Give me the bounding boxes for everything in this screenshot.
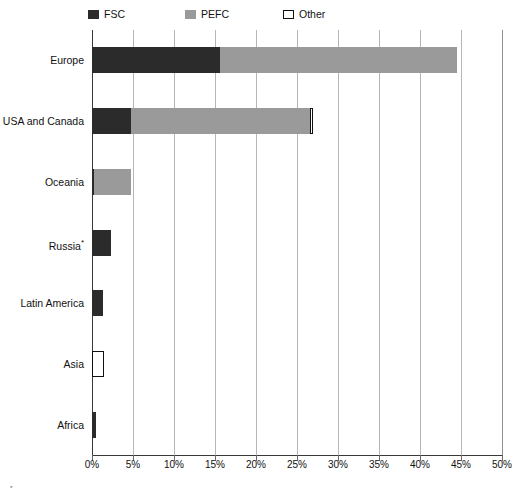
square-swatch-icon [185, 10, 196, 19]
legend-item-other[interactable]: Other [283, 6, 325, 22]
bar-segment-pefc[interactable] [94, 169, 131, 195]
bar-row [92, 230, 502, 256]
legend-label-pefc: PEFC [201, 9, 229, 20]
bar-segment-other[interactable] [310, 108, 313, 134]
bar-stack [92, 169, 131, 195]
bar-row [92, 169, 502, 195]
category-label-asia: Asia [64, 358, 84, 370]
bar-segment-fsc[interactable] [92, 290, 103, 316]
category-label-europe: Europe [50, 54, 84, 66]
legend-item-pefc[interactable]: PEFC [185, 6, 229, 22]
x-tick-label-20%: 20% [246, 459, 266, 471]
legend-item-fsc[interactable]: FSC [88, 6, 125, 22]
x-tick-label-25%: 25% [287, 459, 307, 471]
category-axis-labels: EuropeUSA and CanadaOceaniaRussia*Latin … [0, 30, 88, 455]
x-tick-label-35%: 35% [369, 459, 389, 471]
category-label-latin-america: Latin America [20, 297, 84, 309]
bar-stack [92, 290, 103, 316]
bar-segment-fsc[interactable] [92, 412, 96, 438]
bar-row [92, 412, 502, 438]
bar-segment-other[interactable] [92, 351, 104, 377]
x-tick-label-50%: 50% [492, 459, 512, 471]
certified-forest-area-chart: FSCPEFCOther EuropeUSA and CanadaOceania… [0, 0, 523, 491]
footnote-marker: * [10, 484, 36, 491]
chart-footnote: * [10, 484, 523, 491]
bar-stack [92, 412, 96, 438]
bar-segment-fsc[interactable] [92, 230, 111, 256]
square-swatch-icon [88, 10, 99, 19]
plot-area [92, 30, 502, 455]
x-tick-label-15%: 15% [205, 459, 225, 471]
x-tick-label-10%: 10% [164, 459, 184, 471]
bar-stack [92, 47, 457, 73]
bar-segment-fsc[interactable] [92, 47, 220, 73]
category-label-africa: Africa [57, 419, 84, 431]
bar-row [92, 290, 502, 316]
bar-row [92, 47, 502, 73]
x-tick-label-30%: 30% [328, 459, 348, 471]
bar-row [92, 108, 502, 134]
x-tick-label-40%: 40% [410, 459, 430, 471]
chart-legend: FSCPEFCOther [0, 6, 523, 22]
legend-label-fsc: FSC [104, 9, 125, 20]
bar-stack [92, 230, 111, 256]
x-tick-label-0%: 0% [85, 459, 99, 471]
category-label-oceania: Oceania [45, 176, 84, 188]
value-axis-labels: 0%5%10%15%20%25%30%35%40%45%50% [92, 459, 502, 473]
bar-stack [92, 108, 313, 134]
bar-row [92, 351, 502, 377]
gridline-50% [502, 30, 503, 455]
bar-segment-fsc[interactable] [92, 108, 131, 134]
square-outline-swatch-icon [283, 10, 294, 19]
legend-label-other: Other [299, 9, 325, 20]
x-tick-label-45%: 45% [451, 459, 471, 471]
category-label-usa-and-canada: USA and Canada [3, 115, 84, 127]
x-tick-label-5%: 5% [126, 459, 140, 471]
bar-segment-pefc[interactable] [131, 108, 310, 134]
category-label-russia: Russia* [49, 237, 84, 252]
bar-segment-pefc[interactable] [220, 47, 457, 73]
bar-rows [92, 30, 502, 455]
bar-stack [92, 351, 104, 377]
